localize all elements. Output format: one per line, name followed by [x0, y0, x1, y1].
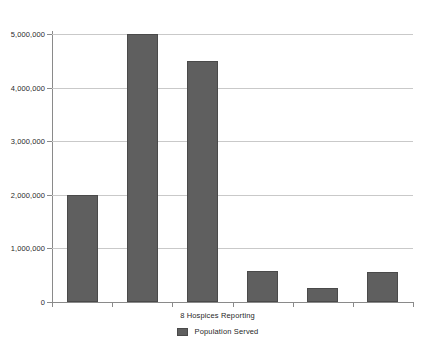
bar: [307, 288, 338, 302]
legend-swatch-population-served: [177, 328, 188, 336]
bar: [367, 272, 398, 302]
legend-label-population-served: Population Served: [195, 327, 259, 336]
bar: [67, 195, 98, 302]
y-axis-tick-label: 1,000,000: [11, 244, 45, 253]
x-axis-tick-mark: [112, 302, 113, 307]
x-axis-tick-mark: [172, 302, 173, 307]
y-axis-tick-label: 3,000,000: [11, 137, 45, 146]
y-axis-tick-label: 5,000,000: [11, 30, 45, 39]
plot-area: [52, 34, 413, 302]
bar: [187, 61, 218, 302]
gridline: [52, 34, 413, 35]
gridline: [52, 88, 413, 89]
x-axis-tick-mark: [233, 302, 234, 307]
y-axis-tick-label: 4,000,000: [11, 83, 45, 92]
bar: [247, 271, 278, 302]
x-axis-tick-mark: [413, 302, 414, 307]
x-axis-tick-mark: [293, 302, 294, 307]
y-axis-tick-label: 0: [41, 298, 45, 307]
chart-legend: Population Served: [0, 327, 435, 336]
x-axis-tick-mark: [353, 302, 354, 307]
y-axis-tick-label: 2,000,000: [11, 190, 45, 199]
gridline: [52, 248, 413, 249]
gridline: [52, 141, 413, 142]
gridline: [52, 195, 413, 196]
x-axis-tick-mark: [52, 302, 53, 307]
x-axis-title: 8 Hospices Reporting: [0, 311, 435, 320]
bar: [127, 34, 158, 302]
bar-chart: 01,000,0002,000,0003,000,0004,000,0005,0…: [0, 0, 435, 354]
